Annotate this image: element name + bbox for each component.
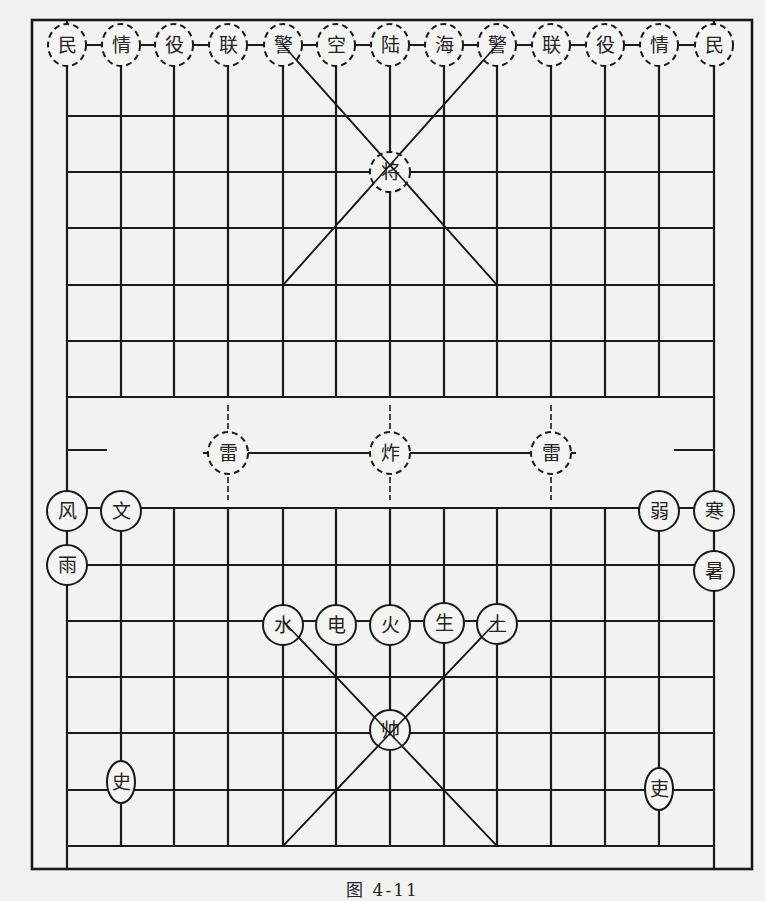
piece-label: 土 <box>488 613 507 635</box>
piece-label: 情 <box>112 34 131 56</box>
river-piece[interactable]: 炸 <box>370 432 410 474</box>
piece-label: 海 <box>435 34 454 56</box>
bottom-piece[interactable]: 生 <box>424 603 464 643</box>
piece-label: 史 <box>112 771 131 793</box>
river-piece[interactable]: 雷 <box>531 432 571 474</box>
piece-label: 空 <box>327 34 346 56</box>
bottom-piece[interactable]: 帅 <box>370 710 410 750</box>
bottom-piece[interactable]: 文 <box>101 491 141 531</box>
top-piece[interactable]: 空 <box>317 24 355 66</box>
piece-label: 水 <box>274 614 293 636</box>
river-piece[interactable]: 雷 <box>208 432 248 474</box>
top-piece[interactable]: 海 <box>425 24 463 66</box>
top-piece[interactable]: 役 <box>155 24 193 66</box>
piece-label: 帅 <box>381 719 400 741</box>
top-piece[interactable]: 陆 <box>371 24 409 66</box>
bottom-piece[interactable]: 弱 <box>639 491 679 531</box>
piece-label: 联 <box>542 34 561 56</box>
top-piece[interactable]: 情 <box>102 24 140 66</box>
figure-caption: 图 4-11 <box>0 876 765 901</box>
piece-label: 风 <box>58 500 77 522</box>
top-piece[interactable]: 民 <box>48 24 86 66</box>
piece-label: 陆 <box>381 34 400 56</box>
piece-label: 民 <box>58 34 77 56</box>
piece-label: 联 <box>219 34 238 56</box>
bottom-piece[interactable]: 水 <box>263 605 303 645</box>
bottom-piece[interactable]: 寒 <box>694 491 734 531</box>
piece-label: 寒 <box>705 500 724 522</box>
bottom-piece[interactable]: 暑 <box>694 551 734 591</box>
piece-label: 役 <box>165 34 184 56</box>
piece-label: 暑 <box>705 560 724 582</box>
bottom-piece[interactable]: 电 <box>316 605 356 645</box>
piece-label: 生 <box>435 612 454 634</box>
game-board: 民情役联警空陆海警联役情民将雷炸雷风文雨弱寒暑水电火生土帅史吏 <box>0 0 765 901</box>
piece-label: 情 <box>650 34 669 56</box>
piece-label: 文 <box>112 500 131 522</box>
piece-label: 雷 <box>542 442 561 464</box>
piece-label: 炸 <box>381 442 400 464</box>
piece-label: 雨 <box>58 554 77 576</box>
bottom-piece[interactable]: 土 <box>477 604 517 644</box>
top-piece[interactable]: 役 <box>586 24 624 66</box>
top-piece[interactable]: 情 <box>640 24 678 66</box>
top-piece[interactable]: 联 <box>209 24 247 66</box>
piece-label: 民 <box>705 34 724 56</box>
bottom-piece[interactable]: 雨 <box>47 545 87 585</box>
top-piece[interactable]: 联 <box>532 24 570 66</box>
bottom-piece[interactable]: 风 <box>47 491 87 531</box>
piece-label: 役 <box>596 34 615 56</box>
top-general-piece[interactable]: 将 <box>370 152 410 192</box>
bottom-piece[interactable]: 吏 <box>645 768 673 810</box>
top-piece[interactable]: 民 <box>695 24 733 66</box>
piece-label: 弱 <box>650 500 669 522</box>
piece-label: 吏 <box>650 778 669 800</box>
bottom-piece[interactable]: 史 <box>107 761 135 803</box>
piece-label: 火 <box>381 614 400 636</box>
piece-label: 雷 <box>219 442 238 464</box>
bottom-piece[interactable]: 火 <box>370 605 410 645</box>
piece-label: 电 <box>327 614 346 636</box>
